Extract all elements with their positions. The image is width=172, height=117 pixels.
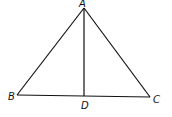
segment-ab [17, 8, 84, 95]
vertex-label-c: C [153, 94, 160, 105]
triangle-diagram: A B C D [0, 0, 172, 117]
vertex-label-b: B [8, 91, 15, 102]
segment-ac [84, 8, 150, 97]
vertex-label-a: A [78, 0, 86, 9]
diagram-svg: A B C D [0, 0, 172, 117]
point-label-d: D [81, 100, 89, 111]
